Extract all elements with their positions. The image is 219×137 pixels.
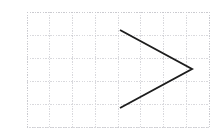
- figure-canvas: [0, 0, 219, 137]
- figure-svg: [0, 0, 219, 137]
